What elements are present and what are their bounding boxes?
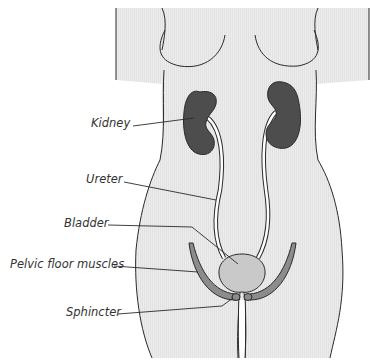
label-kidney: Kidney	[91, 118, 130, 130]
label-bladder: Bladder	[64, 218, 109, 230]
torso	[116, 8, 369, 358]
anatomy-diagram	[0, 0, 371, 364]
label-pelvic-floor-muscles: Pelvic floor muscles	[10, 259, 124, 271]
label-ureter: Ureter	[86, 174, 123, 186]
label-sphincter: Sphincter	[66, 307, 121, 319]
bladder	[219, 254, 265, 292]
left-sphincter	[232, 294, 240, 301]
right-sphincter	[244, 294, 252, 301]
